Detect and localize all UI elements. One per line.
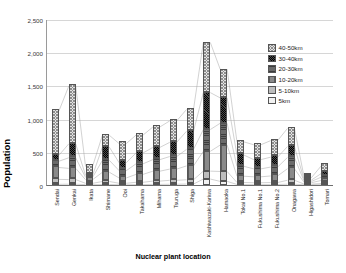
bar-segment	[86, 164, 93, 173]
legend-swatch-icon	[268, 55, 276, 63]
bar-segment	[220, 69, 227, 98]
bar-segment	[271, 165, 278, 174]
x-tick-slot: Tomari	[316, 188, 333, 246]
x-axis-tick-label: Fukushima No.1	[257, 189, 263, 228]
bar-segment	[102, 159, 109, 171]
bar-segment	[254, 183, 261, 185]
x-tick-slot: Shimane	[97, 188, 114, 246]
x-tick-slot: Onagawa	[282, 188, 299, 246]
stacked-bar[interactable]	[102, 134, 109, 185]
bar-segment	[288, 156, 295, 167]
stacked-bar[interactable]	[304, 173, 311, 185]
bar-segment	[102, 134, 109, 146]
bar-segment	[220, 181, 227, 185]
bar-segment	[187, 165, 194, 179]
x-axis-tick-label: Fukushima No.2	[274, 189, 280, 228]
x-axis-tick-label: Sendai	[54, 189, 60, 206]
bar-segment	[220, 171, 227, 181]
bar-segment	[69, 167, 76, 178]
legend-swatch-icon	[268, 76, 276, 84]
bar-segment	[102, 146, 109, 159]
bar-segment	[187, 108, 194, 130]
x-tick-slot: Fukushima No.2	[265, 188, 282, 246]
bar-segment	[52, 183, 59, 185]
stacked-bar[interactable]	[170, 119, 177, 185]
bar-segment	[136, 133, 143, 151]
stacked-bar[interactable]	[321, 163, 328, 185]
bar-segment	[203, 92, 210, 129]
stacked-bar[interactable]	[254, 143, 261, 185]
stacked-bar[interactable]	[52, 109, 59, 185]
bar-segment	[86, 183, 93, 185]
x-tick-slot: Genkai	[63, 188, 80, 246]
bar-slot	[232, 20, 249, 185]
bar-segment	[288, 145, 295, 156]
x-axis-tick-label: Tomari	[324, 189, 330, 205]
bar-segment	[153, 146, 160, 158]
stacked-bar[interactable]	[288, 127, 295, 185]
x-tick-slot: Kashiwazaki-Kariwa	[198, 188, 215, 246]
bar-segment	[153, 125, 160, 146]
bar-segment	[136, 183, 143, 185]
bar-segment	[220, 97, 227, 123]
legend-item[interactable]: 5km	[268, 97, 342, 105]
bar-segment	[288, 167, 295, 179]
y-axis-tick: 1,500	[12, 83, 43, 90]
bar-slot	[131, 20, 148, 185]
stacked-bar[interactable]	[271, 139, 278, 185]
legend-item[interactable]: 20-30km	[268, 65, 342, 73]
bar-slot	[148, 20, 165, 185]
stacked-bar[interactable]	[237, 140, 244, 185]
stacked-bar[interactable]	[153, 125, 160, 185]
stacked-bar[interactable]	[203, 42, 210, 185]
stacked-bar[interactable]	[136, 133, 143, 185]
stacked-bar[interactable]	[119, 141, 126, 185]
bar-segment	[203, 151, 210, 171]
stacked-bar[interactable]	[220, 69, 227, 185]
legend-item[interactable]: 30-40km	[268, 55, 342, 63]
bar-segment	[102, 183, 109, 185]
bar-segment	[119, 183, 126, 185]
bar-segment	[237, 153, 244, 164]
x-axis-tick-label: Ikata	[88, 189, 94, 201]
bar-segment	[102, 171, 109, 180]
bar-segment	[187, 130, 194, 148]
legend-label: 10-20km	[279, 76, 303, 83]
bar-segment	[119, 168, 126, 175]
legend-swatch-icon	[268, 65, 276, 73]
legend-item[interactable]: 40-50km	[268, 44, 342, 52]
x-axis-tick-label: Takahama	[139, 189, 145, 214]
bar-slot	[97, 20, 114, 185]
population-by-nuclear-plant-chart: Thousands Population 05001,0001,5002,000…	[0, 0, 346, 273]
legend-swatch-icon	[268, 86, 276, 94]
stacked-bar[interactable]	[69, 84, 76, 185]
x-tick-slot: Ikata	[80, 188, 97, 246]
bar-segment	[119, 141, 126, 160]
bar-segment	[170, 183, 177, 185]
x-axis-tick-label: Higashidori	[308, 189, 314, 216]
x-axis-tick-label: Tokai No.1	[240, 189, 246, 214]
y-axis-tick: 2,000	[12, 50, 43, 57]
legend-item[interactable]: 5-10km	[268, 86, 342, 94]
bar-slot	[81, 20, 98, 185]
legend-item[interactable]: 10-20km	[268, 76, 342, 84]
x-axis-tick-label: Mihama	[156, 189, 162, 208]
stacked-bar[interactable]	[86, 164, 93, 185]
bar-segment	[69, 143, 76, 157]
bar-segment	[203, 129, 210, 151]
x-axis-tick-labels: SendaiGenkaiIkataShimaneOoiTakahamaMiham…	[46, 188, 333, 246]
stacked-bar[interactable]	[187, 108, 194, 185]
bar-slot	[47, 20, 64, 185]
bar-segment	[153, 183, 160, 185]
bar-segment	[153, 170, 160, 180]
bar-slot	[198, 20, 215, 185]
x-axis-tick-label: Shiga	[189, 189, 195, 203]
bar-segment	[271, 155, 278, 165]
x-tick-slot: Sendai	[46, 188, 63, 246]
legend-label: 40-50km	[279, 44, 303, 51]
bar-segment	[170, 168, 177, 179]
x-axis-tick-label: Tsuruga	[173, 189, 179, 208]
bar-segment	[203, 42, 210, 92]
bar-slot	[165, 20, 182, 185]
legend-label: 5-10km	[279, 87, 300, 94]
